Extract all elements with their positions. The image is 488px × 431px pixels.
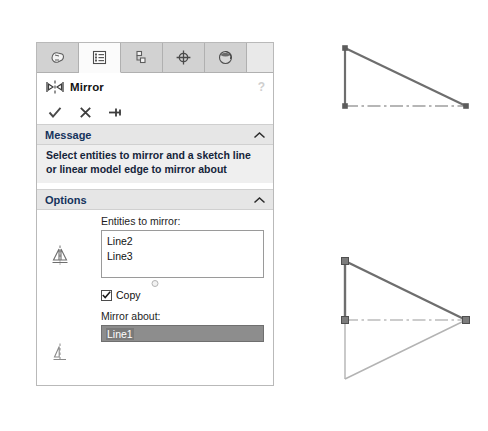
list-item[interactable]: Line3 bbox=[107, 249, 263, 264]
property-manager-panel: Mirror ? Message bbox=[36, 42, 274, 386]
message-body: Select entities to mirror and a sketch l… bbox=[37, 145, 273, 183]
copy-checkbox-label: Copy bbox=[116, 289, 141, 301]
chevron-up-icon[interactable] bbox=[253, 126, 266, 144]
original-sketch-triangle bbox=[342, 45, 469, 109]
list-item[interactable]: Line2 bbox=[107, 234, 263, 249]
entities-to-mirror-row: Line2 Line3 bbox=[37, 230, 273, 278]
message-section-title: Message bbox=[45, 129, 91, 141]
dimxpert-target-icon bbox=[175, 49, 192, 66]
section-divider bbox=[37, 183, 273, 190]
configuration-icon bbox=[133, 49, 150, 66]
tab-property-manager[interactable] bbox=[79, 43, 121, 73]
panel-title-row: Mirror ? bbox=[37, 73, 273, 101]
message-text: Select entities to mirror and a sketch l… bbox=[46, 149, 263, 176]
mirror-about-row: Line1 bbox=[37, 325, 273, 342]
tab-strip-filler bbox=[247, 43, 273, 72]
tab-display-manager[interactable] bbox=[205, 43, 247, 72]
copy-checkbox[interactable] bbox=[101, 290, 112, 301]
tab-configuration-manager[interactable] bbox=[121, 43, 163, 72]
entities-to-mirror-list[interactable]: Line2 Line3 bbox=[101, 230, 264, 278]
appearance-sphere-icon bbox=[217, 49, 234, 66]
mirror-axis-icon bbox=[47, 342, 73, 362]
pushpin-button[interactable] bbox=[107, 105, 123, 121]
help-icon[interactable]: ? bbox=[258, 81, 267, 93]
mirror-about-label: Mirror about: bbox=[101, 310, 273, 322]
tab-dimxpert-manager[interactable] bbox=[163, 43, 205, 72]
copy-checkbox-row[interactable]: Copy bbox=[101, 289, 273, 301]
mirror-about-field[interactable]: Line1 bbox=[101, 325, 264, 342]
accept-button[interactable] bbox=[47, 105, 63, 121]
tree-icon bbox=[49, 49, 66, 66]
mirror-about-value: Line1 bbox=[106, 328, 134, 340]
mirror-icon bbox=[45, 79, 65, 95]
chevron-up-icon[interactable] bbox=[253, 191, 266, 209]
tab-feature-manager[interactable] bbox=[37, 43, 79, 72]
options-section-title: Options bbox=[45, 194, 87, 206]
panel-action-row bbox=[37, 101, 273, 125]
options-body: Entities to mirror: Line2 Line3 bbox=[37, 210, 273, 342]
mirror-entities-icon bbox=[47, 244, 73, 266]
resize-dot-icon bbox=[152, 280, 159, 287]
sketch-graphics-area bbox=[320, 24, 488, 414]
entities-to-mirror-label: Entities to mirror: bbox=[101, 215, 273, 227]
list-resize-handle[interactable] bbox=[37, 278, 273, 287]
message-section-header[interactable]: Message bbox=[37, 125, 273, 145]
property-list-icon bbox=[91, 49, 108, 66]
page-title: Mirror bbox=[70, 81, 104, 93]
cancel-button[interactable] bbox=[77, 105, 93, 121]
mirrored-sketch-result bbox=[342, 258, 470, 380]
options-section-header[interactable]: Options bbox=[37, 190, 273, 210]
panel-tab-strip bbox=[37, 43, 273, 73]
